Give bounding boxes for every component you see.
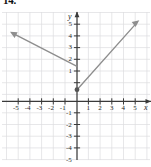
x-tick-label--3: -3 [36, 105, 42, 112]
y-tick-label--1: -1 [66, 110, 72, 117]
x-tick-label--4: -4 [25, 105, 31, 112]
graph-figure: 14. [0, 0, 151, 167]
coordinate-plane [0, 0, 151, 167]
x-tick-label--1: -1 [60, 105, 66, 112]
x-axis-label: x [144, 104, 148, 112]
curve-right-branch [77, 24, 136, 90]
y-tick-label-2: 2 [69, 56, 73, 63]
x-tick-label-4: 4 [122, 105, 126, 112]
closed-point-marker [75, 87, 80, 92]
x-tick-label-3: 3 [110, 105, 114, 112]
x-tick-label--5: -5 [13, 105, 19, 112]
x-tick-label-5: 5 [133, 105, 137, 112]
y-tick-label-3: 3 [69, 44, 73, 51]
x-tick-label--2: -2 [48, 105, 54, 112]
y-tick-label-4: 4 [69, 33, 73, 40]
y-tick-label-5: 5 [69, 21, 73, 28]
y-tick-label--2: -2 [66, 122, 72, 129]
y-tick-label--5: -5 [66, 157, 72, 164]
y-tick-label--3: -3 [66, 133, 72, 140]
curve-left-branch [13, 34, 77, 67]
x-tick-label-2: 2 [98, 105, 102, 112]
y-tick-label--4: -4 [66, 145, 72, 152]
y-tick-label-1: 1 [69, 68, 73, 75]
right-branch-arrow-icon [132, 20, 140, 27]
x-tick-label-1: 1 [87, 105, 91, 112]
grid-horizontal [2, 13, 150, 160]
